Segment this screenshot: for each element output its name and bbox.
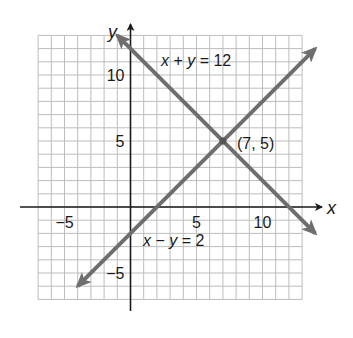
y-axis-label: y: [106, 22, 118, 42]
y-tick-label: 10: [107, 67, 125, 84]
equation-label-diff: x − y = 2: [142, 232, 204, 249]
y-tick-label: −5: [106, 265, 124, 282]
intersection-label: (7, 5): [237, 135, 274, 152]
x-tick-label: 10: [254, 214, 272, 231]
x-axis-label: x: [326, 198, 337, 218]
grid: [38, 35, 302, 299]
x-tick-label: 5: [192, 214, 201, 231]
intersection-point: [219, 138, 226, 145]
x-tick-label: −5: [55, 214, 73, 231]
coordinate-plane: −5510105−5xyx + y = 12x − y = 2(7, 5): [0, 0, 353, 338]
equation-label-sum: x + y = 12: [160, 52, 231, 69]
y-tick-label: 5: [116, 133, 125, 150]
